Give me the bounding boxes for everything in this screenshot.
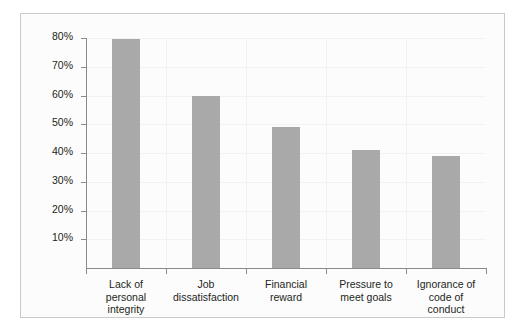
- y-gridline: [87, 67, 486, 68]
- y-axis-tick-label: 20%: [52, 203, 73, 215]
- y-axis-tick-label: 40%: [52, 145, 73, 157]
- y-axis-tick: 80%: [81, 38, 86, 39]
- y-axis-tick-label: 70%: [52, 59, 73, 71]
- y-axis-tick: 40%: [81, 153, 86, 154]
- x-axis-line: [86, 268, 487, 269]
- plot-area: 10%20%30%40%50%60%70%80%: [86, 38, 486, 268]
- y-axis-tick: 10%: [81, 239, 86, 240]
- category-band-separator: [166, 38, 167, 268]
- x-axis-tick: [326, 269, 327, 274]
- bar: [352, 150, 380, 268]
- bar: [112, 39, 140, 268]
- y-axis-tick: 50%: [81, 124, 86, 125]
- x-axis-tick: [406, 269, 407, 274]
- x-axis-category-label: Pressure to meet goals: [326, 278, 406, 303]
- chart-panel: 10%20%30%40%50%60%70%80% Lack of persona…: [20, 13, 505, 318]
- y-axis-tick-label: 10%: [52, 231, 73, 243]
- y-axis-tick-label: 50%: [52, 116, 73, 128]
- y-axis-tick-label: 30%: [52, 174, 73, 186]
- y-axis-tick: 70%: [81, 67, 86, 68]
- bar: [272, 127, 300, 268]
- bar: [432, 156, 460, 268]
- y-axis-tick: 60%: [81, 96, 86, 97]
- y-gridline: [87, 96, 486, 97]
- bar: [192, 96, 220, 269]
- x-axis-category-label: Job dissatisfaction: [166, 278, 246, 303]
- y-axis-tick: 20%: [81, 211, 86, 212]
- y-gridline: [87, 38, 486, 39]
- x-axis-tick: [246, 269, 247, 274]
- y-axis-tick-label: 60%: [52, 88, 73, 100]
- x-axis-tick: [86, 269, 87, 274]
- x-axis-tick: [486, 269, 487, 274]
- y-axis-tick: 30%: [81, 182, 86, 183]
- x-axis-category-label: Lack of personal integrity: [86, 278, 166, 316]
- category-band-separator: [326, 38, 327, 268]
- category-band-separator: [246, 38, 247, 268]
- y-axis-tick-label: 80%: [52, 30, 73, 42]
- y-gridline: [87, 124, 486, 125]
- x-axis-category-label: Financial reward: [246, 278, 326, 303]
- x-axis-tick: [166, 269, 167, 274]
- x-axis-category-label: Ignorance of code of conduct: [406, 278, 486, 316]
- category-band-separator: [406, 38, 407, 268]
